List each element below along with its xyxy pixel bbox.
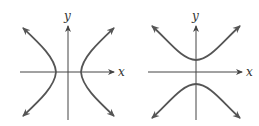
right-branch-lower <box>81 72 114 116</box>
upper-branch-right <box>196 26 240 60</box>
y-axis-label: y <box>63 9 71 23</box>
left-branch-upper <box>23 28 56 72</box>
left-graph: y x <box>20 9 125 120</box>
x-axis-label: x <box>118 65 125 79</box>
lower-branch-right <box>196 84 240 118</box>
upper-branch-left <box>152 26 196 60</box>
hyperbola-figures: y x y x <box>0 0 259 126</box>
left-branch-lower <box>23 72 56 116</box>
right-graph: y x <box>148 9 253 120</box>
x-axis-label: x <box>246 65 253 79</box>
right-branch-upper <box>81 28 114 72</box>
y-axis-label: y <box>191 9 199 23</box>
lower-branch-left <box>152 84 196 118</box>
